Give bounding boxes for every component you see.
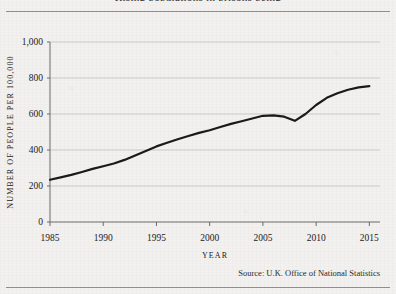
x-tick-marks-group [50,222,369,226]
x-tick-label: 1990 [94,233,113,243]
source-attribution: Source: U.K. Office of National Statisti… [238,268,380,278]
line-chart-svg: 02004006008001,000 198519901995200020052… [0,0,396,294]
y-tick-label: 800 [29,73,44,83]
x-tick-label: 1985 [41,233,60,243]
x-tick-label: 2000 [200,233,219,243]
y-tick-label: 200 [29,181,44,191]
chart-plot-area: 02004006008001,000 198519901995200020052… [0,0,396,294]
x-tick-labels-group: 1985199019952000200520102015 [41,233,380,243]
x-tick-label: 1995 [147,233,166,243]
data-series-line [50,86,369,180]
y-axis-title: NUMBER OF PEOPLE PER 100,000 [6,55,15,208]
gridlines-group [50,42,380,186]
x-tick-label: 2010 [307,233,326,243]
y-tick-label: 600 [29,109,44,119]
x-axis-title: YEAR [202,251,228,260]
y-tick-labels-group: 02004006008001,000 [22,37,44,227]
y-tick-label: 1,000 [22,37,44,47]
x-tick-label: 2005 [253,233,272,243]
y-tick-label: 0 [38,217,43,227]
x-tick-label: 2015 [360,233,379,243]
y-tick-label: 400 [29,145,44,155]
